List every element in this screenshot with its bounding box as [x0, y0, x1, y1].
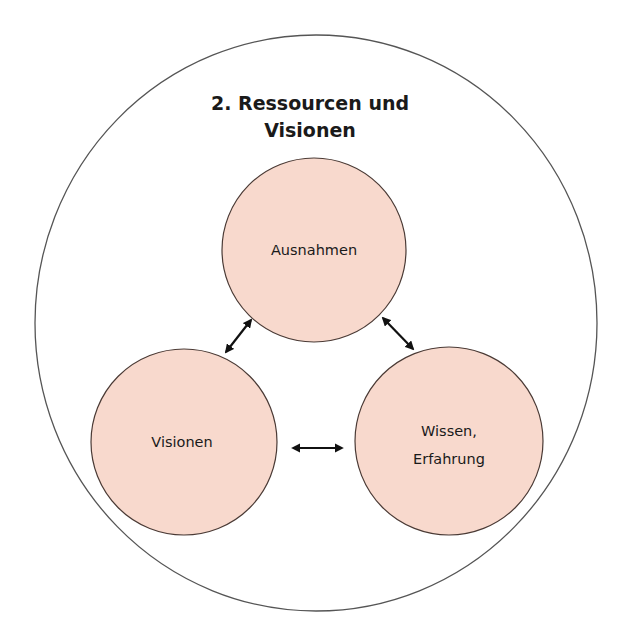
- node-wissen-erfahrung: Wissen, Erfahrung: [355, 347, 543, 535]
- diagram-title: 2. Ressourcen und Visionen: [211, 92, 409, 141]
- node-wissen-circle: [355, 347, 543, 535]
- node-ausnahmen: Ausnahmen: [222, 158, 406, 342]
- node-visionen-label: Visionen: [151, 434, 212, 450]
- node-wissen-label-line-1: Wissen,: [421, 423, 477, 439]
- title-line-2: Visionen: [264, 119, 356, 141]
- node-wissen-label-line-2: Erfahrung: [413, 451, 485, 467]
- arrow-ausnahmen-visionen-icon: [226, 320, 251, 352]
- arrow-ausnahmen-wissen-icon: [383, 318, 413, 349]
- title-line-1: 2. Ressourcen und: [211, 92, 409, 114]
- node-ausnahmen-label: Ausnahmen: [271, 242, 357, 258]
- diagram-canvas: 2. Ressourcen und Visionen Ausnahmen Vis…: [0, 0, 628, 643]
- node-visionen: Visionen: [91, 349, 277, 535]
